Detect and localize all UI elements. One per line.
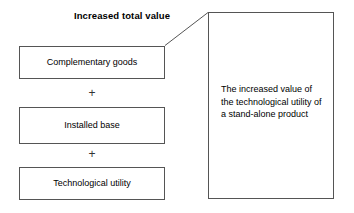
- box-label: Installed base: [64, 120, 120, 131]
- box-technological-utility: Technological utility: [19, 167, 165, 200]
- plus-operator-2: +: [85, 148, 99, 160]
- box-label: Complementary goods: [47, 57, 138, 68]
- diagram-title: Increased total value: [62, 10, 182, 21]
- callout-text: The increased value of the technological…: [221, 83, 325, 121]
- box-label: Technological utility: [53, 178, 131, 189]
- box-complementary-goods: Complementary goods: [19, 46, 165, 79]
- box-installed-base: Installed base: [19, 107, 165, 144]
- diagram-canvas: Increased total value Complementary good…: [0, 0, 354, 213]
- plus-operator-1: +: [85, 87, 99, 99]
